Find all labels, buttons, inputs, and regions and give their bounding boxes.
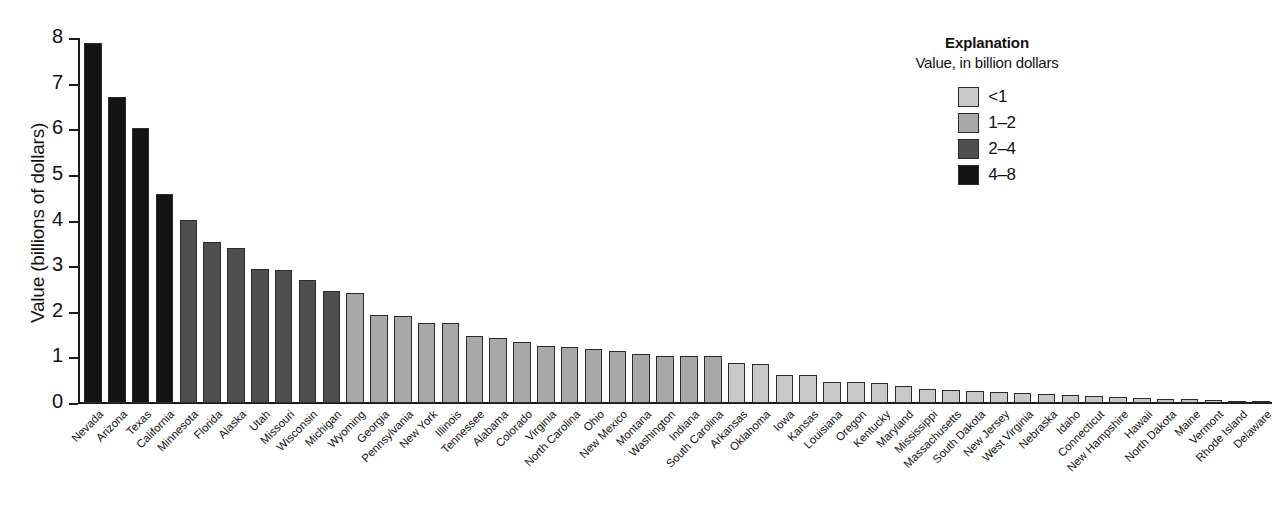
y-axis-tick: 2 xyxy=(69,312,78,314)
bar xyxy=(871,383,889,403)
bar xyxy=(561,347,579,403)
legend-item: 2–4 xyxy=(958,136,1015,161)
legend-swatch xyxy=(958,139,979,159)
legend-swatch xyxy=(958,165,979,185)
bar xyxy=(1014,393,1032,403)
y-axis-tick: 4 xyxy=(69,221,78,223)
bar xyxy=(895,386,913,403)
bar xyxy=(1181,399,1199,403)
bar xyxy=(346,293,364,403)
legend-item-label: <1 xyxy=(988,87,1007,107)
bar xyxy=(299,280,317,403)
bar xyxy=(1133,398,1151,403)
bar xyxy=(442,323,460,403)
bar xyxy=(537,346,555,403)
legend-swatch xyxy=(958,113,979,133)
y-axis-tick-label: 2 xyxy=(23,300,63,320)
y-axis-tick: 3 xyxy=(69,266,78,268)
bar xyxy=(704,356,722,403)
bar xyxy=(609,351,627,403)
bar xyxy=(680,356,698,403)
bar xyxy=(156,194,174,403)
bar xyxy=(370,315,388,404)
legend-item-label: 1–2 xyxy=(988,113,1015,133)
y-axis-tick-label: 7 xyxy=(23,72,63,92)
y-axis-tick: 6 xyxy=(69,129,78,131)
bar xyxy=(1252,401,1270,404)
bar xyxy=(323,291,341,403)
bar xyxy=(180,220,198,403)
bar xyxy=(275,270,293,403)
bar xyxy=(632,354,650,403)
bar xyxy=(489,338,507,403)
bar xyxy=(1062,395,1080,403)
bar xyxy=(227,248,245,403)
bar xyxy=(1109,397,1127,403)
bar-chart-figure: Value (billions of dollars) 012345678 Ne… xyxy=(0,0,1277,517)
bar xyxy=(513,342,531,403)
bar xyxy=(847,382,865,403)
bar xyxy=(823,382,841,403)
bar xyxy=(203,242,221,404)
legend-item: 1–2 xyxy=(958,110,1015,135)
legend-item-label: 2–4 xyxy=(988,139,1015,159)
bar xyxy=(919,389,937,403)
bar xyxy=(1038,394,1056,403)
bar xyxy=(728,363,746,403)
bar xyxy=(251,269,269,403)
bar xyxy=(418,323,436,403)
legend-items: <11–22–44–8 xyxy=(958,84,1015,188)
legend-title: Explanation xyxy=(842,34,1132,51)
x-axis-tick-labels: NevadaArizonaTexasCaliforniaMinnesotaFlo… xyxy=(78,404,1272,517)
bar xyxy=(776,375,794,403)
bar xyxy=(656,356,674,403)
bar xyxy=(1085,396,1103,403)
legend-swatch xyxy=(958,87,979,107)
y-axis-tick: 1 xyxy=(69,357,78,359)
y-axis-tick: 5 xyxy=(69,175,78,177)
bar xyxy=(942,390,960,403)
bar xyxy=(1205,400,1223,403)
y-axis-tick-label: 1 xyxy=(23,345,63,365)
bar xyxy=(466,336,484,403)
bar xyxy=(752,364,770,403)
bar xyxy=(108,97,126,403)
legend-item: <1 xyxy=(958,84,1015,109)
legend-item-label: 4–8 xyxy=(988,165,1015,185)
y-axis-tick-label: 4 xyxy=(23,209,63,229)
bar xyxy=(84,43,102,403)
legend-item: 4–8 xyxy=(958,162,1015,187)
y-axis-tick-label: 6 xyxy=(23,117,63,137)
legend-subtitle: Value, in billion dollars xyxy=(842,54,1132,71)
bar xyxy=(990,392,1008,403)
y-axis-tick-label: 5 xyxy=(23,163,63,183)
y-axis-tick-label: 3 xyxy=(23,254,63,274)
bar xyxy=(966,391,984,403)
legend: Explanation Value, in billion dollars <1… xyxy=(842,34,1132,189)
bar xyxy=(394,316,412,403)
bar xyxy=(132,128,150,403)
bar xyxy=(585,349,603,403)
bar xyxy=(1228,401,1246,404)
y-axis-tick: 0 xyxy=(69,403,78,405)
y-axis-tick: 8 xyxy=(69,38,78,40)
y-axis-tick: 7 xyxy=(69,84,78,86)
bar xyxy=(1157,399,1175,403)
bar xyxy=(799,375,817,403)
y-axis-tick-label: 0 xyxy=(23,391,63,411)
y-axis-tick-label: 8 xyxy=(23,26,63,46)
